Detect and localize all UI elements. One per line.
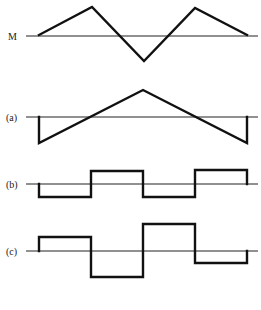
panel-label-c: (c) xyxy=(6,246,17,258)
waveform-m xyxy=(39,7,247,61)
panel-label-a: (a) xyxy=(6,112,17,124)
panel-label-m: M xyxy=(8,31,17,42)
panel-m: M xyxy=(8,7,258,61)
waveform-figure: M (a) (b) (c) xyxy=(0,0,261,310)
panel-a: (a) xyxy=(6,90,258,143)
panel-c: (c) xyxy=(6,224,258,277)
panel-b: (b) xyxy=(6,170,258,197)
panel-label-b: (b) xyxy=(6,179,18,191)
